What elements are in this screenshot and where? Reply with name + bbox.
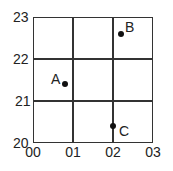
x-tick-02: 02 <box>105 145 121 159</box>
point-c-label: C <box>119 124 129 138</box>
y-tick-21: 21 <box>15 94 31 108</box>
point-a-label: A <box>51 72 60 86</box>
point-a <box>62 81 68 87</box>
grid-line-y22 <box>33 58 153 60</box>
x-tick-03: 03 <box>145 145 161 159</box>
grid-line-x01 <box>72 17 74 143</box>
x-tick-01: 01 <box>65 145 81 159</box>
point-c <box>110 123 116 129</box>
y-tick-23: 23 <box>13 10 29 24</box>
grid-line-y21 <box>33 100 153 102</box>
point-b <box>118 31 124 37</box>
y-tick-22: 22 <box>13 52 29 66</box>
point-b-label: B <box>125 20 134 34</box>
x-tick-00: 00 <box>25 145 41 159</box>
